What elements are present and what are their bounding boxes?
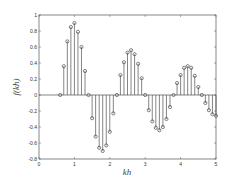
x-tick-label: 2 — [108, 161, 111, 167]
y-tick-label: -0.4 — [28, 124, 37, 130]
y-tick-label: 0.4 — [30, 60, 37, 66]
y-tick-label: 0 — [34, 92, 37, 98]
y-tick-label: 0.6 — [30, 44, 37, 50]
x-tick-label: 1 — [73, 161, 76, 167]
y-tick-label: 0.2 — [30, 76, 37, 82]
x-axis-label: kh — [123, 167, 132, 177]
x-tick-label: 3 — [144, 161, 147, 167]
y-tick-label: -0.2 — [28, 108, 37, 114]
x-tick-label: 5 — [215, 161, 218, 167]
y-tick-label: 0.8 — [30, 28, 37, 34]
y-axis-label: f(kh) — [11, 79, 21, 96]
x-tick-label: 4 — [179, 161, 182, 167]
y-tick-label: -0.8 — [28, 156, 37, 162]
y-tick-label: -0.6 — [28, 140, 37, 146]
stem-chart: 01234510.80.60.40.20-0.2-0.4-0.6-0.8 kh … — [0, 0, 228, 181]
y-tick-label: 1 — [34, 12, 37, 18]
x-tick-label: 0 — [38, 161, 41, 167]
